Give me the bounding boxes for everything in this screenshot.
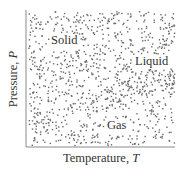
region-label-liquid: Liquid	[134, 55, 169, 68]
x-axis-variable: T	[132, 151, 139, 165]
stipple-dots	[28, 11, 175, 146]
region-label-gas: Gas	[106, 119, 127, 132]
y-axis-title: Pressure, P	[6, 11, 20, 147]
stipple-plot	[0, 0, 187, 172]
y-axis-variable: P	[6, 51, 20, 59]
x-axis-title: Temperature, T	[26, 151, 176, 165]
phase-diagram: Solid Liquid Gas Temperature, T Pressure…	[0, 0, 187, 172]
x-axis-title-text: Temperature,	[63, 151, 132, 165]
region-label-solid: Solid	[50, 34, 78, 47]
y-axis-title-text: Pressure,	[6, 59, 20, 108]
